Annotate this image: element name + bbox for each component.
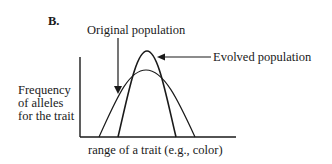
original-population-label: Original population — [87, 24, 185, 37]
evolved-pointer-arrowhead — [157, 54, 165, 61]
y-axis-label-line3: for the trait — [18, 110, 74, 123]
evolved-population-curve — [118, 51, 176, 137]
x-axis-label: range of a trait (e.g., color) — [88, 144, 223, 157]
original-population-curve — [99, 70, 195, 137]
evolved-population-label: Evolved population — [213, 51, 311, 64]
